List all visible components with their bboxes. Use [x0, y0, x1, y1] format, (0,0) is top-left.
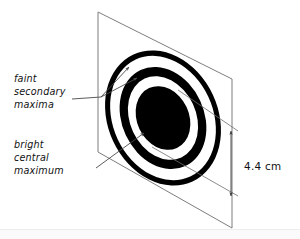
dimension-value-text: 4.4 cm — [244, 160, 281, 172]
secondary-label-line-1: faint — [14, 73, 38, 84]
faint-secondary-maxima-label: faint secondary maxima — [14, 73, 66, 110]
figure-canvas: 4.4 cm faint secondary maxima bright cen… — [0, 0, 300, 239]
central-label-line-2: central — [14, 152, 49, 163]
secondary-leader-stem — [72, 97, 101, 99]
secondary-label-line-2: secondary — [14, 86, 66, 97]
page-bottom-edge — [0, 229, 300, 239]
diffraction-pattern-figure: 4.4 cm faint secondary maxima bright cen… — [0, 0, 300, 239]
central-label-line-3: maximum — [14, 165, 64, 176]
secondary-label-line-3: maxima — [14, 99, 54, 110]
central-label-line-1: bright — [14, 139, 45, 150]
bright-central-maximum-label: bright central maximum — [14, 139, 64, 176]
